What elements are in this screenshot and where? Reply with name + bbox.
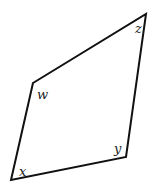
vertex-label-y: y: [113, 141, 122, 156]
vertex-label-w: w: [37, 87, 48, 102]
vertex-label-x: x: [19, 164, 27, 179]
vertex-label-z: z: [134, 21, 142, 36]
quadrilateral-diagram: w z y x: [0, 0, 151, 188]
quadrilateral-wzyx: [11, 14, 146, 180]
